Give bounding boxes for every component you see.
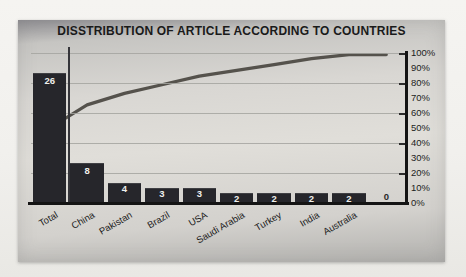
plot-area: 26843322220 xyxy=(31,53,405,203)
bar-column: 3 xyxy=(181,53,218,203)
right-axis-tick xyxy=(399,83,405,85)
right-axis-label: 100% xyxy=(411,47,451,59)
category-label-text: Turkey xyxy=(253,209,283,233)
category-label-text: USA xyxy=(186,209,208,228)
bar-column: 26 xyxy=(31,53,68,203)
bar-column: 4 xyxy=(106,53,143,203)
bar-column: 0 xyxy=(368,53,405,203)
bar-column: 2 xyxy=(293,53,330,203)
bar-value-label: 26 xyxy=(31,75,68,86)
total-column-separator xyxy=(68,47,70,202)
right-axis-label: 0% xyxy=(411,197,451,209)
bar-value-label: 0 xyxy=(368,191,405,202)
category-label-text: Brazil xyxy=(145,209,171,230)
bar-value-label: 8 xyxy=(68,165,105,176)
bar xyxy=(33,73,66,203)
bar-value-label: 3 xyxy=(181,188,218,199)
bar-column: 8 xyxy=(68,53,105,203)
right-axis-label: 50% xyxy=(411,122,451,134)
right-axis-label: 90% xyxy=(411,62,451,74)
right-axis-tick xyxy=(399,143,405,145)
bar-column: 3 xyxy=(143,53,180,203)
right-axis-tick xyxy=(399,113,405,115)
bar-value-label: 4 xyxy=(106,183,143,194)
bar-column: 2 xyxy=(255,53,292,203)
right-axis-label: 80% xyxy=(411,77,451,89)
bar-value-label: 3 xyxy=(143,188,180,199)
category-label-text: Total xyxy=(36,209,59,229)
right-axis-label: 10% xyxy=(411,182,451,194)
right-y-axis-line xyxy=(405,51,408,205)
chart-title: DISSTRIBUTION OF ARTICLE ACCORDING TO CO… xyxy=(18,24,445,38)
right-axis-label: 40% xyxy=(411,137,451,149)
category-label-text: China xyxy=(70,209,97,231)
category-label-text: Pakistan xyxy=(97,209,134,237)
bar-column: 2 xyxy=(330,53,367,203)
right-axis-tick xyxy=(399,53,405,55)
right-axis-label: 20% xyxy=(411,167,451,179)
category-label-text: India xyxy=(298,209,321,229)
x-axis-line xyxy=(28,202,409,205)
right-axis-tick xyxy=(399,173,405,175)
right-axis-label: 30% xyxy=(411,152,451,164)
right-axis-label: 70% xyxy=(411,92,451,104)
bar-column: 2 xyxy=(218,53,255,203)
category-label-text: Australia xyxy=(321,209,359,237)
chart-frame: DISSTRIBUTION OF ARTICLE ACCORDING TO CO… xyxy=(18,20,445,262)
right-axis-label: 60% xyxy=(411,107,451,119)
